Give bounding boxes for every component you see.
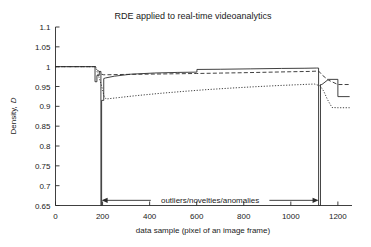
x-tick-label: 800: [237, 212, 251, 221]
y-axis-label-plain: Density,: [9, 106, 18, 134]
y-tick-label: 0.8: [39, 142, 51, 151]
x-tick-label: 1000: [282, 212, 300, 221]
y-tick-label: 0.9: [39, 102, 51, 111]
y-axis-label-italic: D: [9, 97, 18, 103]
x-axis-label: data sample (pixel of an image frame): [136, 226, 271, 235]
x-tick-label: 1200: [329, 212, 347, 221]
annotation-group: outliers/novelties/anomalies: [102, 196, 319, 205]
chart-svg: RDE applied to real-time videoanalytics …: [0, 0, 371, 247]
y-tick-label: 1.05: [35, 43, 51, 52]
y-tick-label: 0.65: [35, 202, 51, 211]
chart-figure: RDE applied to real-time videoanalytics …: [0, 0, 371, 247]
y-tick-label: 0.7: [39, 182, 51, 191]
x-tick-label: 0: [53, 212, 58, 221]
annotation-label: outliers/novelties/anomalies: [161, 196, 259, 205]
y-tick-label: 1: [46, 63, 51, 72]
series-group: [56, 67, 350, 206]
y-axis-label: Density,D: [9, 97, 18, 134]
annotation-arrowhead-right: [313, 198, 319, 203]
density-solid: [56, 67, 350, 206]
y-axis-label-text: Density,D: [9, 97, 18, 134]
y-tick-label: 1.1: [39, 23, 51, 32]
y-tick-label: 0.85: [35, 122, 51, 131]
x-tick-label: 200: [96, 212, 110, 221]
x-tick-label: 400: [143, 212, 157, 221]
chart-title: RDE applied to real-time videoanalytics: [114, 11, 272, 21]
y-tick-label: 0.95: [35, 83, 51, 92]
axes: [56, 27, 353, 206]
y-tick-label: 0.75: [35, 162, 51, 171]
x-tick-label: 600: [190, 212, 204, 221]
